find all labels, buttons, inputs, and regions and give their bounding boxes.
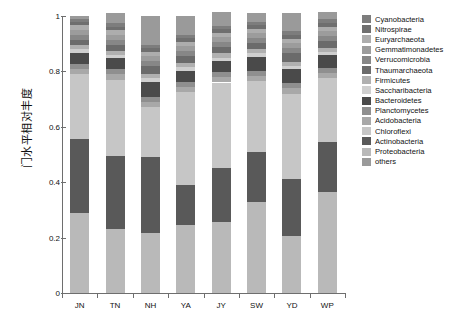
legend-item[interactable]: Firmicutes	[362, 75, 476, 85]
bar-segment[interactable]	[176, 38, 195, 42]
bar-segment[interactable]	[247, 38, 266, 43]
bar-segment[interactable]	[141, 82, 160, 97]
bar-segment[interactable]	[212, 53, 231, 57]
legend-item[interactable]: Proteobacteria	[362, 146, 476, 156]
bar-segment[interactable]	[176, 71, 195, 82]
stacked-bar[interactable]	[176, 16, 195, 293]
bar-segment[interactable]	[141, 66, 160, 74]
bar-segment[interactable]	[212, 77, 231, 83]
bar-segment[interactable]	[318, 68, 337, 73]
bar-segment[interactable]	[70, 213, 89, 293]
bar-segment[interactable]	[106, 55, 125, 58]
bar-segment[interactable]	[176, 35, 195, 38]
bar-segment[interactable]	[141, 52, 160, 56]
bar-segment[interactable]	[70, 40, 89, 46]
bar-segment[interactable]	[247, 29, 266, 33]
bar-segment[interactable]	[212, 72, 231, 77]
bar-segment[interactable]	[318, 23, 337, 27]
stacked-bar[interactable]	[106, 16, 125, 293]
bar-segment[interactable]	[70, 16, 89, 19]
bar-segment[interactable]	[141, 157, 160, 233]
bar-segment[interactable]	[106, 40, 125, 45]
bar-segment[interactable]	[212, 26, 231, 30]
bar-segment[interactable]	[212, 83, 231, 169]
bar-segment[interactable]	[176, 185, 195, 225]
bar-segment[interactable]	[70, 22, 89, 26]
bar-segment[interactable]	[318, 192, 337, 293]
legend-item[interactable]: Euryarchaeota	[362, 34, 476, 44]
bar-segment[interactable]	[141, 102, 160, 108]
bar-segment[interactable]	[318, 78, 337, 142]
bar-segment[interactable]	[318, 41, 337, 48]
bar-segment[interactable]	[176, 87, 195, 93]
bar-segment[interactable]	[106, 23, 125, 27]
bar-segment[interactable]	[176, 92, 195, 185]
bar-segment[interactable]	[106, 58, 125, 69]
bar-segment[interactable]	[176, 46, 195, 51]
bar-segment[interactable]	[282, 66, 301, 69]
bar-segment[interactable]	[247, 71, 266, 76]
bar-segment[interactable]	[70, 19, 89, 22]
bar-segment[interactable]	[318, 55, 337, 67]
bar-segment[interactable]	[282, 236, 301, 293]
legend-item[interactable]: Gemmatimonadetes	[362, 45, 476, 55]
bar-segment[interactable]	[176, 67, 195, 70]
bar-segment[interactable]	[176, 16, 195, 35]
bar-segment[interactable]	[212, 12, 231, 26]
bar-segment[interactable]	[282, 179, 301, 236]
bar-segment[interactable]	[70, 69, 89, 75]
bar-segment[interactable]	[247, 49, 266, 53]
bar-segment[interactable]	[282, 62, 301, 66]
legend-item[interactable]: others	[362, 157, 476, 167]
bar-segment[interactable]	[212, 29, 231, 33]
legend-item[interactable]: Verrucomicrobia	[362, 55, 476, 65]
bar-segment[interactable]	[106, 27, 125, 31]
bar-segment[interactable]	[318, 48, 337, 52]
legend-item[interactable]: Acidobacteria	[362, 116, 476, 126]
stacked-bar[interactable]	[212, 16, 231, 293]
bar-segment[interactable]	[70, 30, 89, 35]
bar-segment[interactable]	[318, 36, 337, 41]
bar-segment[interactable]	[176, 225, 195, 293]
bar-segment[interactable]	[176, 82, 195, 87]
bar-segment[interactable]	[282, 53, 301, 61]
bar-segment[interactable]	[212, 37, 231, 42]
bar-segment[interactable]	[141, 97, 160, 102]
bar-segment[interactable]	[176, 56, 195, 63]
bar-segment[interactable]	[141, 78, 160, 81]
bar-segment[interactable]	[282, 94, 301, 180]
legend-item[interactable]: Actinobacteria	[362, 136, 476, 146]
bar-segment[interactable]	[106, 80, 125, 156]
bar-segment[interactable]	[318, 31, 337, 36]
legend-item[interactable]: Chloroflexi	[362, 126, 476, 136]
bar-segment[interactable]	[247, 57, 266, 71]
bar-segment[interactable]	[106, 13, 125, 23]
bar-segment[interactable]	[106, 74, 125, 80]
bar-segment[interactable]	[212, 222, 231, 293]
bar-segment[interactable]	[282, 43, 301, 48]
stacked-bar[interactable]	[141, 16, 160, 293]
bar-segment[interactable]	[70, 74, 89, 139]
bar-segment[interactable]	[176, 42, 195, 46]
bar-segment[interactable]	[141, 107, 160, 157]
bar-segment[interactable]	[247, 13, 266, 21]
legend-item[interactable]: Bacteroidetes	[362, 96, 476, 106]
bar-segment[interactable]	[141, 48, 160, 52]
bar-segment[interactable]	[212, 61, 231, 72]
bar-segment[interactable]	[106, 35, 125, 40]
bar-segment[interactable]	[70, 25, 89, 29]
legend-item[interactable]: Planctomycetes	[362, 106, 476, 116]
bar-segment[interactable]	[282, 13, 301, 31]
bar-segment[interactable]	[70, 139, 89, 212]
bar-segment[interactable]	[176, 63, 195, 67]
bar-segment[interactable]	[141, 74, 160, 78]
bar-segment[interactable]	[212, 47, 231, 53]
bar-segment[interactable]	[106, 229, 125, 293]
bar-segment[interactable]	[106, 30, 125, 34]
bar-segment[interactable]	[212, 33, 231, 37]
bar-segment[interactable]	[247, 202, 266, 293]
bar-segment[interactable]	[70, 64, 89, 69]
bar-segment[interactable]	[318, 12, 337, 19]
stacked-bar[interactable]	[282, 16, 301, 293]
bar-segment[interactable]	[70, 49, 89, 52]
